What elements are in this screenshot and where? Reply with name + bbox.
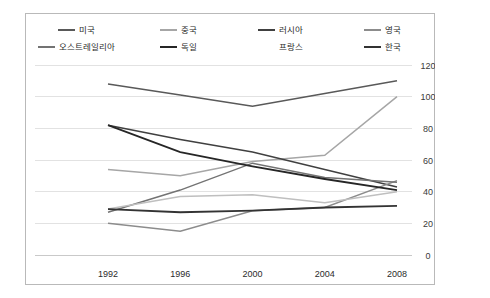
y-tick-label: 60 xyxy=(423,156,433,166)
x-tick-label: 2008 xyxy=(387,269,407,279)
y-tick-label: 80 xyxy=(423,124,433,134)
series-lines xyxy=(108,81,397,231)
x-tick-label: 2000 xyxy=(242,269,262,279)
y-tick-label: 100 xyxy=(420,92,435,102)
series-line-2 xyxy=(108,125,397,187)
y-tick-label: 120 xyxy=(420,61,435,71)
x-tick-label: 1992 xyxy=(98,269,118,279)
chart-screenshot: 미국 중국 러시아 영국 오스트레일리아 독일 xyxy=(0,0,490,298)
x-axis-tick-labels: 19921996200020042008 xyxy=(98,269,407,279)
y-tick-label: 40 xyxy=(423,187,433,197)
x-tick-label: 2004 xyxy=(315,269,335,279)
y-axis-tick-labels: 020406080100120 xyxy=(420,61,435,261)
series-line-5 xyxy=(108,125,397,190)
series-line-0 xyxy=(108,81,397,106)
x-tick-label: 1996 xyxy=(170,269,190,279)
y-tick-label: 0 xyxy=(425,251,430,261)
series-line-4 xyxy=(108,163,397,212)
y-tick-label: 20 xyxy=(423,219,433,229)
chart-plot-area: 020406080100120 19921996200020042008 xyxy=(25,13,435,285)
series-line-7 xyxy=(108,206,397,212)
